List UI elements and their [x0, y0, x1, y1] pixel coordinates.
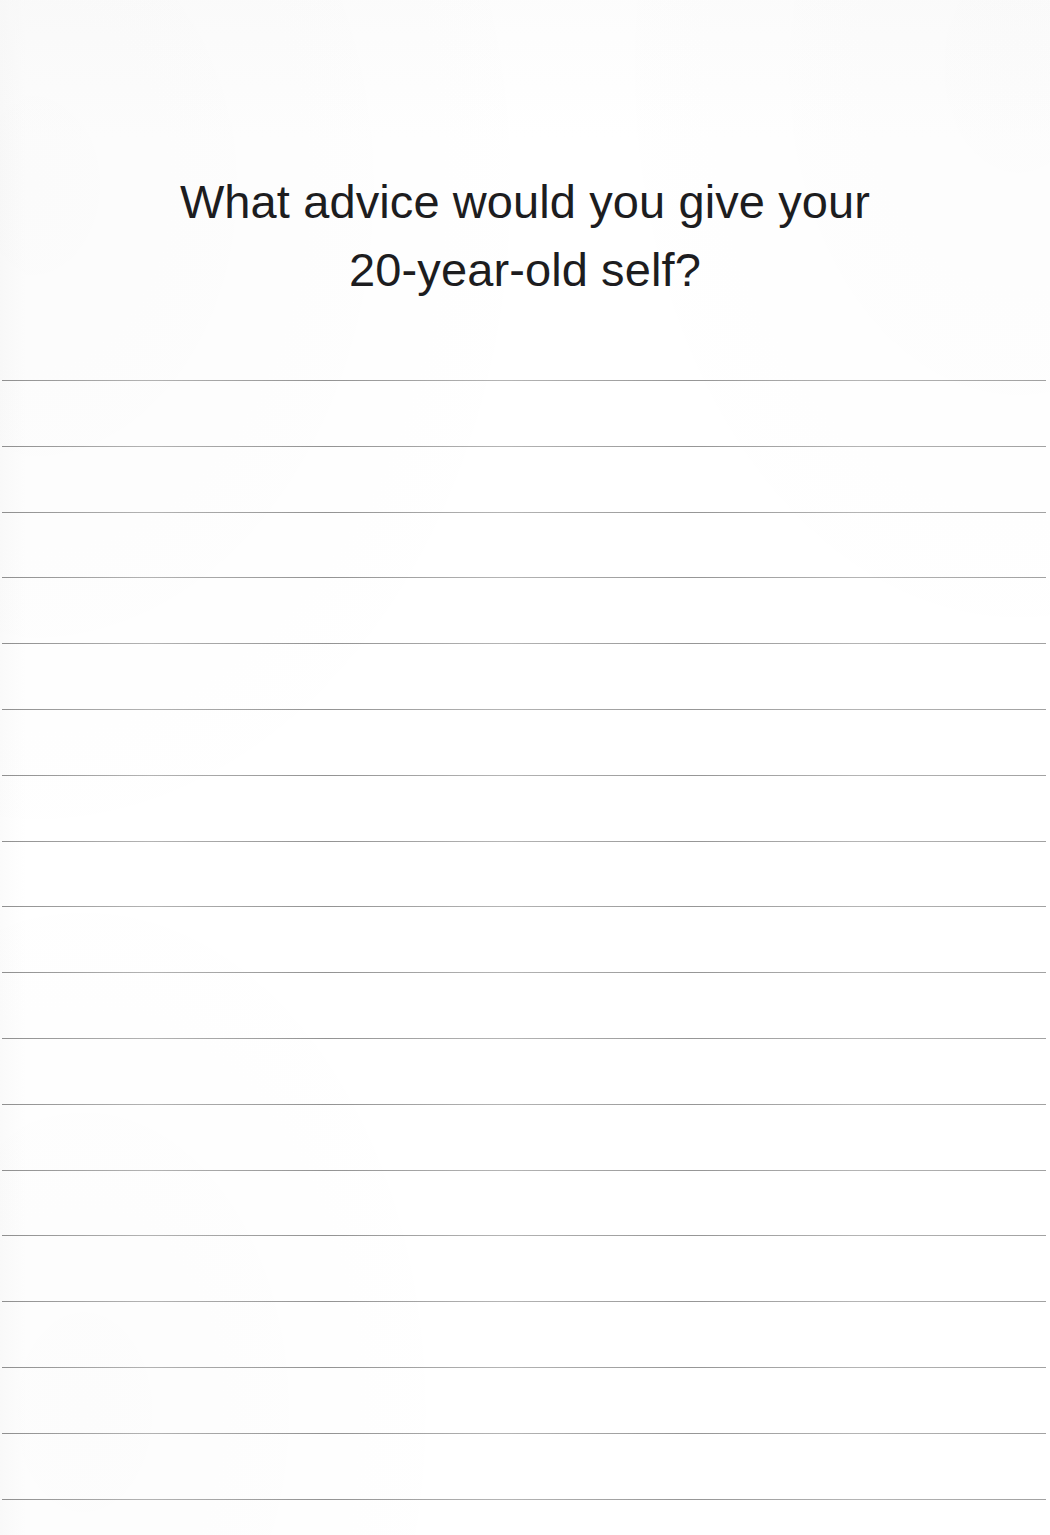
rule-line [2, 972, 1046, 973]
rule-line [2, 1367, 1046, 1368]
rule-line [2, 775, 1046, 776]
rule-line [2, 512, 1046, 513]
rule-line [2, 841, 1046, 842]
rule-line [2, 643, 1046, 644]
rule-line [2, 1104, 1046, 1105]
rule-line [2, 446, 1046, 447]
rule-line [2, 1433, 1046, 1434]
rule-line [2, 1235, 1046, 1236]
rule-line [2, 906, 1046, 907]
writing-area[interactable] [0, 0, 1050, 1535]
rule-line [2, 1301, 1046, 1302]
rule-line [2, 1038, 1046, 1039]
rule-line [2, 709, 1046, 710]
rule-line [2, 577, 1046, 578]
rule-line [2, 1499, 1046, 1500]
rule-line [2, 1170, 1046, 1171]
journal-page: What advice would you give your 20-year-… [0, 0, 1050, 1535]
rule-line [2, 380, 1046, 381]
